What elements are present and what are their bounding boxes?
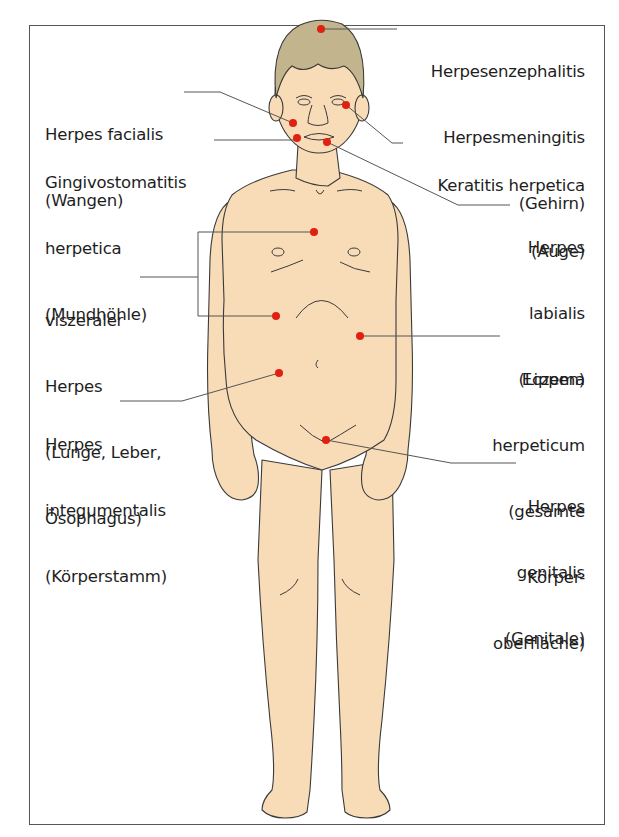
marker-mouth [293,134,301,142]
label-line: Herpes [45,434,167,456]
label-line: genitalis [505,562,585,584]
label-line: labialis [518,303,585,325]
body-figure [208,37,413,818]
marker-trunk-right [356,332,364,340]
label-line: Herpesenzephalitis [431,61,585,83]
marker-trunk-left [275,369,283,377]
marker-lips [323,138,331,146]
label-line: (Körperstamm) [45,566,167,588]
marker-brain [317,25,325,33]
marker-genital [322,436,330,444]
label-line: Herpes [505,496,585,518]
label-herpes-genitalis: Herpes genitalis (Genitale) [505,452,585,672]
marker-eye [342,101,350,109]
marker-upper-abdomen [272,312,280,320]
marker-chest [310,228,318,236]
label-line: Eczema [492,369,585,391]
label-line: viszeraler [45,310,161,332]
label-line: Herpes [518,237,585,259]
label-line: Gingivostomatitis [45,172,186,194]
label-line: herpetica [45,238,186,260]
label-line: integumentalis [45,500,167,522]
label-herpes-integumentalis: Herpes integumentalis (Körperstamm) [45,390,167,610]
label-line: (Genitale) [505,628,585,650]
marker-cheek [289,119,297,127]
